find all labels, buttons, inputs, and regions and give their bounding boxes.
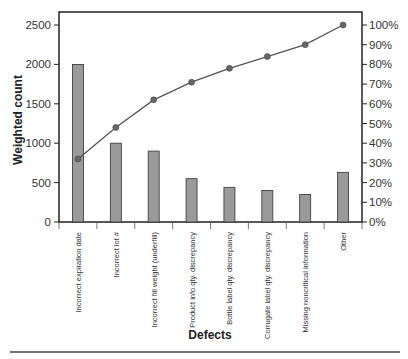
category-label: Incorrect fill weight (underfill) xyxy=(150,232,159,328)
right-tick-label: 50% xyxy=(369,118,392,130)
left-tick-label: 2000 xyxy=(25,58,51,70)
cumulative-point xyxy=(302,42,308,48)
cumulative-point xyxy=(113,124,119,130)
cumulative-point xyxy=(226,65,232,71)
cumulative-point xyxy=(340,22,346,28)
right-tick-label: 100% xyxy=(369,19,398,31)
bar xyxy=(338,172,349,222)
left-tick-label: 0 xyxy=(45,216,51,228)
category-label: Corrugate label qty. discrepancy xyxy=(263,232,272,339)
bar xyxy=(300,194,311,222)
bar xyxy=(262,190,273,222)
category-label: Missing noncritical information xyxy=(301,232,310,332)
left-tick-label: 1000 xyxy=(25,137,51,149)
category-label: Incorrect lot # xyxy=(112,231,121,277)
right-tick-label: 60% xyxy=(369,98,392,110)
right-tick-label: 30% xyxy=(369,157,392,169)
right-y-axis: 0%10%20%30%40%50%60%70%80%90%100% xyxy=(362,19,398,228)
category-label: Bottle label qty. discrepancy xyxy=(225,232,234,325)
cumulative-point xyxy=(75,156,81,162)
left-y-axis: 05001000150020002500 xyxy=(25,19,59,228)
pareto-chart: 05001000150020002500 0%10%20%30%40%50%60… xyxy=(0,0,408,359)
cumulative-point xyxy=(264,54,270,60)
cumulative-point xyxy=(151,97,157,103)
right-tick-label: 90% xyxy=(369,39,392,51)
x-axis-category-labels: Incorrect expiration dateIncorrect lot #… xyxy=(74,231,348,339)
bar xyxy=(224,187,235,222)
plot-area xyxy=(59,12,362,222)
y-axis-title: Weighted count xyxy=(11,75,25,165)
left-tick-label: 2500 xyxy=(25,19,51,31)
left-tick-label: 500 xyxy=(32,177,51,189)
left-tick-label: 1500 xyxy=(25,98,51,110)
bar xyxy=(186,179,197,222)
bar xyxy=(148,151,159,222)
bar xyxy=(110,143,121,222)
right-tick-label: 0% xyxy=(369,216,386,228)
category-label: Other xyxy=(339,232,348,251)
right-tick-label: 20% xyxy=(369,177,392,189)
right-tick-label: 40% xyxy=(369,137,392,149)
right-tick-label: 80% xyxy=(369,58,392,70)
right-tick-label: 10% xyxy=(369,196,392,208)
cumulative-point xyxy=(189,79,195,85)
category-label: Product info qty. discrepancy xyxy=(188,232,197,328)
bar xyxy=(72,64,83,222)
x-axis-title: Defects xyxy=(188,328,232,342)
x-axis-ticks xyxy=(59,222,362,229)
category-label: Incorrect expiration date xyxy=(74,232,83,312)
right-tick-label: 70% xyxy=(369,78,392,90)
